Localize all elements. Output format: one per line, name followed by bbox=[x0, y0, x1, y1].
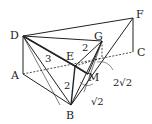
label-G: G bbox=[94, 30, 103, 43]
label-C: C bbox=[137, 46, 145, 59]
label-F: F bbox=[136, 8, 144, 21]
length-EB: 2 bbox=[64, 80, 70, 91]
edge-GM bbox=[88, 41, 102, 74]
vertex-labels: D A B C F G E M bbox=[10, 8, 145, 122]
edge-DG bbox=[23, 36, 102, 41]
edge-EB bbox=[71, 66, 75, 105]
geometry-figure: D A B C F G E M 3 2 2 √2 2√2 bbox=[0, 0, 152, 124]
edge-DM bbox=[23, 36, 88, 74]
label-A: A bbox=[10, 69, 20, 82]
edge-AC bbox=[23, 52, 133, 74]
edge-DF bbox=[23, 18, 133, 36]
solid-edges bbox=[23, 18, 133, 105]
length-MC: 2√2 bbox=[113, 77, 132, 88]
label-D: D bbox=[10, 29, 19, 42]
label-B: B bbox=[66, 109, 74, 122]
label-M: M bbox=[88, 71, 99, 84]
edge-DB bbox=[23, 36, 71, 105]
length-DE: 3 bbox=[45, 53, 51, 64]
length-BM: √2 bbox=[91, 96, 104, 107]
length-EG: 2 bbox=[82, 42, 88, 53]
label-E: E bbox=[66, 50, 74, 63]
